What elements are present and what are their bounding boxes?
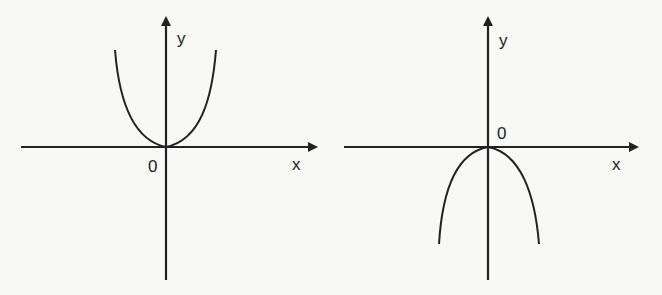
graph-right: y x 0 [331,0,662,295]
graph-left: y x 0 [0,0,331,295]
origin-label: 0 [497,124,506,143]
y-axis-label: y [177,29,186,48]
x-axis-label: x [292,155,301,174]
x-axis-label: x [612,155,621,174]
origin-label: 0 [148,157,157,176]
y-axis-label: y [499,31,508,50]
